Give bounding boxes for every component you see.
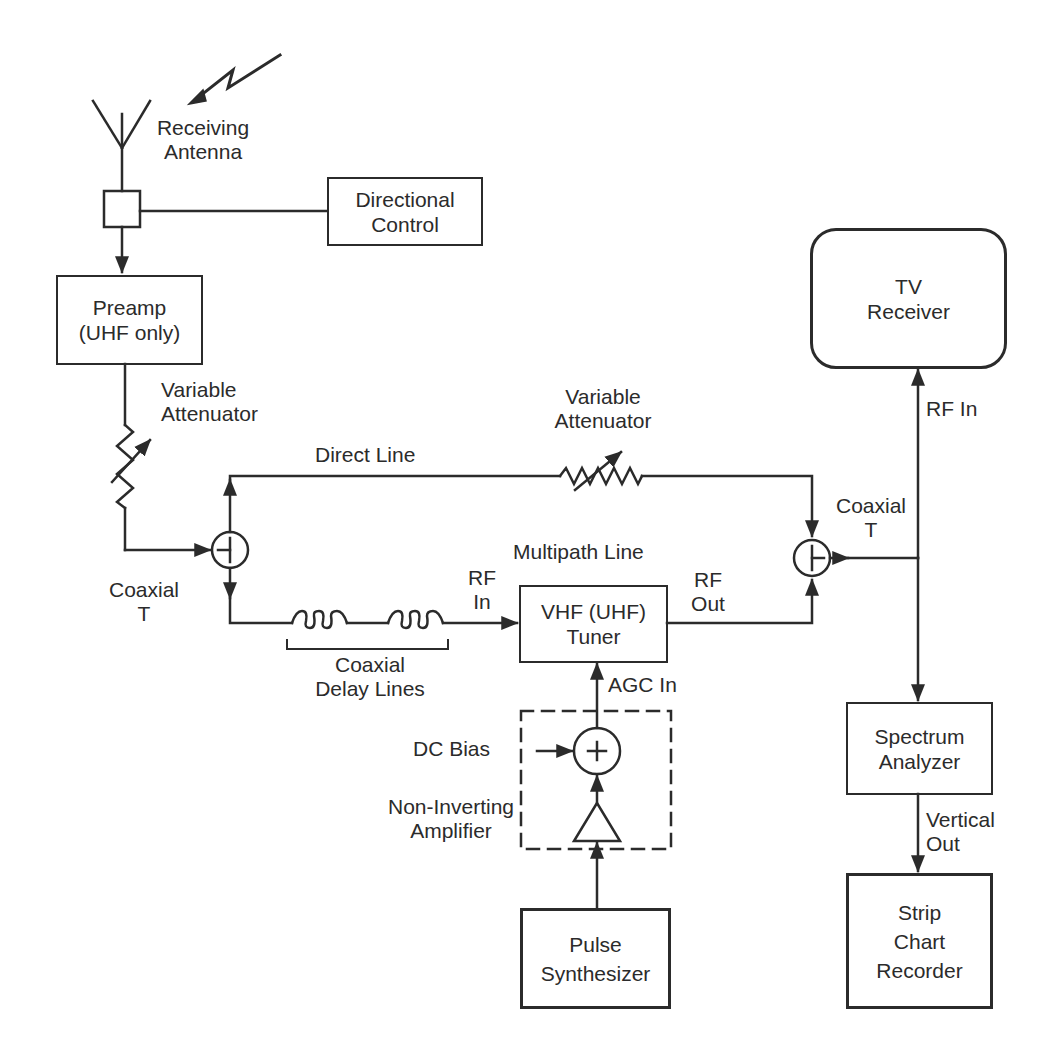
direct-line-label: Direct Line [315, 443, 415, 467]
label-line: RF [691, 568, 725, 592]
block-label-line: Tuner [566, 624, 620, 649]
block-label-line: (UHF only) [79, 320, 181, 345]
block-label-line: Recorder [876, 956, 962, 985]
label-line: Variable [555, 385, 652, 409]
strip-chart-recorder-block: Strip Chart Recorder [846, 873, 993, 1009]
variable-attenuator-right-icon [560, 452, 642, 490]
label-line: Variable [161, 378, 258, 402]
label-line: Coaxial [109, 578, 179, 602]
label-line: Receiving [157, 116, 249, 140]
summer-icon [574, 728, 620, 774]
label-line: Attenuator [161, 402, 258, 426]
receiving-antenna-label: Receiving Antenna [157, 116, 249, 164]
vertical-out-label: Vertical Out [926, 808, 995, 856]
label-line: Coaxial [836, 494, 906, 518]
direct-line-to-right-coax-t [642, 476, 812, 536]
label-line: Out [691, 592, 725, 616]
tv-receiver-block: TV Receiver [810, 228, 1007, 369]
tuner-block: VHF (UHF) Tuner [519, 585, 668, 663]
label-line: Antenna [157, 140, 249, 164]
coaxial-delay-line-coil-2-icon [388, 611, 443, 628]
coaxial-t-right-label: Coaxial T [836, 494, 906, 542]
coaxial-t-left-label: Coaxial T [109, 578, 179, 626]
label-line: RF [468, 566, 496, 590]
preamp-block: Preamp (UHF only) [56, 275, 203, 365]
agc-in-label: AGC In [608, 673, 677, 697]
direct-line [230, 476, 560, 480]
label-line: T [109, 602, 179, 626]
block-label-line: Strip [898, 898, 941, 927]
label-line: Vertical [926, 808, 995, 832]
block-label-line: Spectrum [875, 724, 965, 749]
coaxial-delay-lines-label: Coaxial Delay Lines [315, 653, 425, 701]
label-line: Delay Lines [315, 677, 425, 701]
block-label-line: Control [371, 212, 439, 237]
block-label-line: Pulse [569, 930, 622, 959]
incoming-signal-icon [189, 55, 280, 104]
block-label-line: Analyzer [879, 749, 961, 774]
directional-control-block: Directional Control [327, 177, 483, 246]
variable-attenuator-right-label: Variable Attenuator [555, 385, 652, 433]
antenna-icon [93, 101, 150, 191]
delay-lines-bracket [287, 640, 448, 649]
rf-out-tuner-label: RF Out [691, 568, 725, 616]
block-label-line: Directional [355, 187, 454, 212]
rotator-junction-icon [104, 191, 140, 227]
spectrum-analyzer-block: Spectrum Analyzer [846, 702, 993, 795]
multipath-line-label: Multipath Line [513, 540, 644, 564]
dc-bias-label: DC Bias [413, 737, 490, 761]
label-line: Attenuator [555, 409, 652, 433]
variable-attenuator-left-icon [112, 425, 150, 508]
label-line: Coaxial [315, 653, 425, 677]
label-line: Non-Inverting [388, 795, 514, 819]
non-inverting-amplifier-icon [574, 803, 620, 841]
block-label-line: Preamp [93, 295, 167, 320]
rf-in-tv-label: RF In [926, 397, 977, 421]
block-diagram: Directional Control Preamp (UHF only) TV… [0, 0, 1062, 1055]
coaxial-t-left-icon [212, 532, 248, 568]
label-line: T [836, 518, 906, 542]
block-label-line: Chart [894, 927, 945, 956]
variable-attenuator-left-label: Variable Attenuator [161, 378, 258, 426]
label-line: Amplifier [388, 819, 514, 843]
coaxial-t-right-icon [794, 540, 830, 576]
rf-in-tuner-label: RF In [468, 566, 496, 614]
block-label-line: TV [895, 274, 922, 299]
label-line: Out [926, 832, 995, 856]
block-label-line: VHF (UHF) [541, 599, 646, 624]
non-inverting-amplifier-label: Non-Inverting Amplifier [388, 795, 514, 843]
block-label-line: Receiver [867, 299, 950, 324]
rf-out-tuner-arrow [667, 580, 812, 623]
pulse-synthesizer-block: Pulse Synthesizer [520, 908, 671, 1009]
block-label-line: Synthesizer [541, 959, 651, 988]
label-line: In [468, 590, 496, 614]
coaxial-delay-line-coil-1-icon [292, 611, 347, 628]
